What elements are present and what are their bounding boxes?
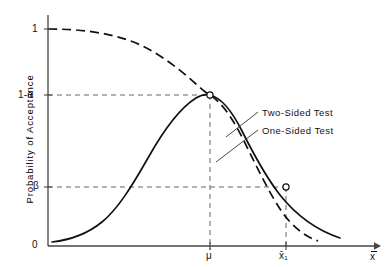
operating-characteristic-chart: 1 1-α β 0 μ x̄₁ x Probability of Accepta… <box>0 0 388 267</box>
y-axis-title: Probability of Acceptance <box>24 74 35 203</box>
x-axis-arrow-icon <box>374 242 381 249</box>
peak-marker <box>207 92 213 98</box>
y-axis-title-wrapper: Probability of Acceptance <box>19 59 37 219</box>
y-tick-label-one: 1 <box>32 24 38 34</box>
x-tick-label-xbar1: x̄₁ <box>279 251 288 261</box>
annotation-one-sided-test: One-Sided Test <box>262 126 334 136</box>
x-axis-title: x <box>370 252 375 262</box>
beta-marker <box>283 184 289 190</box>
x-axis-title-symbol: x <box>370 251 375 262</box>
y-tick-label-zero: 0 <box>32 240 38 250</box>
annotation-two-sided-test: Two-Sided Test <box>262 108 333 118</box>
x-tick-label-mu: μ <box>206 251 212 261</box>
